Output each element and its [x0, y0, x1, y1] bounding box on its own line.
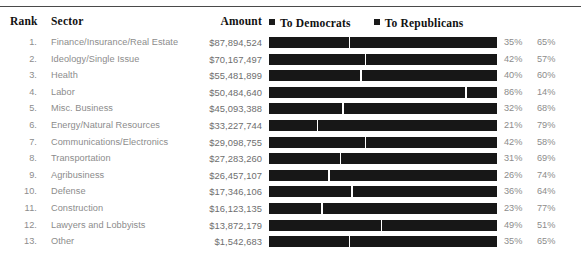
cell-sector: Health	[51, 70, 78, 80]
column-header-amount: Amount	[150, 15, 262, 27]
cell-percent-democrats: 35%	[504, 37, 530, 47]
legend-item-republicans: To Republicans	[374, 17, 464, 29]
bar-split-divider	[365, 54, 367, 65]
table-row[interactable]: 1.Finance/Insurance/Real Estate$87,894,5…	[0, 36, 581, 53]
cell-sector: Construction	[51, 203, 103, 213]
cell-percent-democrats: 49%	[504, 220, 530, 230]
cell-rank: 11.	[10, 203, 37, 213]
cell-percent-republicans: 14%	[537, 87, 565, 97]
cell-percent-republicans: 74%	[537, 170, 565, 180]
stacked-bar	[269, 87, 497, 98]
cell-rank: 2.	[10, 54, 37, 64]
stacked-bar	[269, 54, 497, 65]
cell-percent-democrats: 40%	[504, 70, 530, 80]
chart-legend: To Democrats To Republicans	[269, 15, 463, 31]
square-swatch-icon	[269, 19, 275, 25]
stacked-bar	[269, 170, 497, 181]
cell-amount: $29,098,755	[140, 137, 262, 148]
table-row[interactable]: 2.Ideology/Single Issue$70,167,49742%57%	[0, 53, 581, 70]
cell-amount: $70,167,497	[140, 54, 262, 65]
cell-percent-republicans: 79%	[537, 120, 565, 130]
cell-amount: $1,542,683	[140, 236, 262, 247]
cell-sector: Misc. Business	[51, 103, 113, 113]
cell-amount: $87,894,524	[140, 37, 262, 48]
table-row[interactable]: 7.Communications/Electronics$29,098,7554…	[0, 136, 581, 153]
cell-sector: Ideology/Single Issue	[51, 54, 139, 64]
bar-split-divider	[328, 170, 330, 181]
bar-split-divider	[360, 70, 362, 81]
cell-sector: Transportation	[51, 153, 111, 163]
cell-amount: $45,093,388	[140, 103, 262, 114]
cell-percent-republicans: 77%	[537, 203, 565, 213]
stacked-bar	[269, 220, 497, 231]
table-row[interactable]: 6.Energy/Natural Resources$33,227,74421%…	[0, 119, 581, 136]
table-row[interactable]: 10.Defense$17,346,10636%64%	[0, 185, 581, 202]
cell-rank: 1.	[10, 37, 37, 47]
stacked-bar	[269, 203, 497, 214]
bar-split-divider	[321, 203, 323, 214]
table-body: 1.Finance/Insurance/Real Estate$87,894,5…	[0, 36, 581, 252]
cell-rank: 4.	[10, 87, 37, 97]
cell-sector: Agribusiness	[51, 170, 104, 180]
cell-rank: 9.	[10, 170, 37, 180]
table-header-row: Rank Sector Amount To Democrats To Repub…	[0, 15, 581, 31]
table-row[interactable]: 3.Health$55,481,89940%60%	[0, 69, 581, 86]
cell-rank: 3.	[10, 70, 37, 80]
column-header-sector: Sector	[51, 15, 84, 27]
cell-amount: $33,227,744	[140, 120, 262, 131]
stacked-bar	[269, 120, 497, 131]
cell-amount: $13,872,179	[140, 220, 262, 231]
legend-label-republicans: To Republicans	[385, 17, 464, 29]
square-swatch-icon	[374, 19, 380, 25]
cell-rank: 12.	[10, 220, 37, 230]
cell-amount: $55,481,899	[140, 70, 262, 81]
table-row[interactable]: 9.Agribusiness$26,457,10726%74%	[0, 169, 581, 186]
cell-percent-democrats: 42%	[504, 54, 530, 64]
cell-percent-democrats: 86%	[504, 87, 530, 97]
cell-percent-democrats: 23%	[504, 203, 530, 213]
cell-percent-republicans: 69%	[537, 153, 565, 163]
table-row[interactable]: 4.Labor$50,484,64086%14%	[0, 86, 581, 103]
cell-percent-republicans: 58%	[537, 137, 565, 147]
cell-percent-republicans: 68%	[537, 103, 565, 113]
bar-split-divider	[365, 137, 367, 148]
top-divider-rule	[0, 6, 581, 7]
cell-rank: 8.	[10, 153, 37, 163]
table-row[interactable]: 12.Lawyers and Lobbyists$13,872,17949%51…	[0, 219, 581, 236]
bar-split-divider	[342, 103, 344, 114]
cell-percent-democrats: 26%	[504, 170, 530, 180]
cell-rank: 5.	[10, 103, 37, 113]
cell-sector: Lawyers and Lobbyists	[51, 220, 146, 230]
table-row[interactable]: 8.Transportation$27,283,26031%69%	[0, 152, 581, 169]
cell-percent-republicans: 64%	[537, 186, 565, 196]
bar-split-divider	[349, 236, 351, 247]
cell-amount: $27,283,260	[140, 153, 262, 164]
cell-percent-republicans: 65%	[537, 236, 565, 246]
cell-amount: $50,484,640	[140, 87, 262, 98]
cell-percent-republicans: 65%	[537, 37, 565, 47]
stacked-bar	[269, 153, 497, 164]
bar-split-divider	[351, 186, 353, 197]
column-header-rank: Rank	[10, 15, 46, 27]
stacked-bar	[269, 70, 497, 81]
table-row[interactable]: 13.Other$1,542,68335%65%	[0, 235, 581, 252]
table-row[interactable]: 5.Misc. Business$45,093,38832%68%	[0, 102, 581, 119]
bar-split-divider	[317, 120, 319, 131]
cell-percent-democrats: 31%	[504, 153, 530, 163]
cell-rank: 6.	[10, 120, 37, 130]
bar-split-divider	[340, 153, 342, 164]
table-row[interactable]: 11.Construction$16,123,13523%77%	[0, 202, 581, 219]
stacked-bar	[269, 137, 497, 148]
cell-sector: Defense	[51, 186, 86, 196]
stacked-bar	[269, 236, 497, 247]
cell-sector: Labor	[51, 87, 75, 97]
contributions-by-sector-table: Rank Sector Amount To Democrats To Repub…	[0, 0, 581, 258]
bar-split-divider	[349, 37, 351, 48]
cell-amount: $16,123,135	[140, 203, 262, 214]
cell-amount: $17,346,106	[140, 186, 262, 197]
stacked-bar	[269, 37, 497, 48]
cell-percent-democrats: 35%	[504, 236, 530, 246]
bar-split-divider	[465, 87, 467, 98]
cell-sector: Other	[51, 236, 74, 246]
stacked-bar	[269, 186, 497, 197]
